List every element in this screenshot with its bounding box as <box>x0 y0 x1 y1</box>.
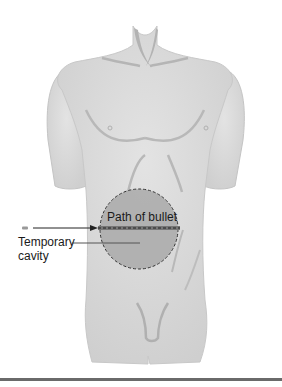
bottom-rule <box>0 378 282 381</box>
label-cavity: cavity <box>18 250 49 263</box>
bullet-path <box>98 226 180 230</box>
bullet-icon <box>22 227 28 230</box>
label-path-of-bullet: Path of bullet <box>107 211 177 224</box>
torso-diagram <box>0 0 282 387</box>
label-temporary: Temporary <box>18 236 75 249</box>
